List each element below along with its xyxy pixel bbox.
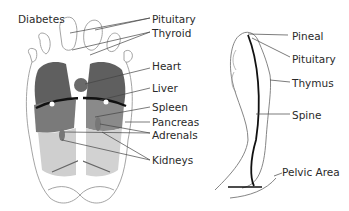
label-spine: Spine bbox=[292, 110, 321, 121]
label-pituitary-right: Pituitary bbox=[292, 54, 336, 65]
toe-right-3 bbox=[124, 50, 132, 62]
reflexology-diagram: Diabetes Pituitary Thyroid Heart Liver S… bbox=[0, 0, 349, 211]
toe-left-2 bbox=[39, 33, 50, 54]
big-toe-right bbox=[84, 20, 103, 50]
label-pelvic-area: Pelvic Area bbox=[282, 167, 340, 178]
label-pancreas: Pancreas bbox=[152, 117, 199, 128]
label-pineal: Pineal bbox=[292, 31, 324, 42]
heel-line bbox=[48, 187, 114, 195]
label-liver: Liver bbox=[152, 83, 178, 94]
label-heart: Heart bbox=[152, 61, 181, 72]
label-adrenals: Adrenals bbox=[152, 130, 198, 141]
toe-right-2 bbox=[107, 33, 120, 51]
heart-region bbox=[74, 78, 88, 92]
label-thymus: Thymus bbox=[292, 78, 334, 89]
spine-line bbox=[248, 35, 259, 186]
side-foot bbox=[215, 32, 276, 198]
label-diabetes: Diabetes bbox=[18, 14, 65, 25]
label-pituitary-left: Pituitary bbox=[152, 14, 196, 25]
label-spleen: Spleen bbox=[152, 102, 188, 113]
toe-left-3 bbox=[28, 48, 36, 62]
organ-regions bbox=[34, 62, 126, 176]
label-kidneys: Kidneys bbox=[152, 155, 193, 166]
label-thyroid: Thyroid bbox=[152, 28, 191, 39]
